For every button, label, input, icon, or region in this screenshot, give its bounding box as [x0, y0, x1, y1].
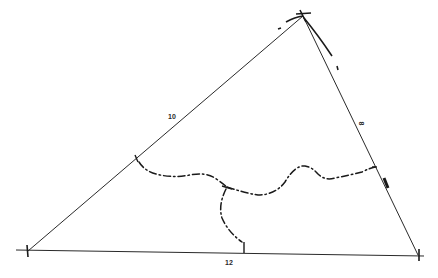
top-vertex-arc-right [304, 18, 332, 56]
vertex-bottom-left-mark [27, 245, 28, 257]
top-vertex-arc-left-dot [278, 28, 281, 29]
top-vertex-arc-left [286, 16, 303, 22]
side-left-edge [28, 16, 303, 251]
triangle-diagram [0, 0, 438, 278]
label-right-side-length: 8 [358, 122, 365, 126]
curve-junction-to-right [227, 166, 375, 195]
top-vertex-arc-right-dot [337, 66, 338, 70]
side-right-edge [303, 16, 418, 255]
curve-left-to-junction [139, 162, 227, 187]
tick-left-side [135, 155, 138, 162]
label-bottom-side-length: 12 [225, 259, 233, 266]
curve-junction-to-bottom [221, 189, 242, 242]
label-left-side-length: 10 [168, 113, 176, 120]
side-bottom-edge [16, 250, 424, 256]
